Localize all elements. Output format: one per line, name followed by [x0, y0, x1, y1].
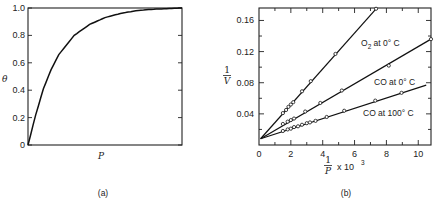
y-tick-label: 0.2: [12, 113, 25, 123]
y-tick-label: 0.6: [12, 58, 25, 68]
data-point: [281, 111, 284, 114]
data-point: [300, 90, 303, 93]
data-point: [374, 99, 377, 102]
data-point: [343, 109, 346, 112]
data-point: [300, 123, 303, 126]
panel-a-y-axis-label: θ: [2, 74, 8, 84]
data-point: [308, 121, 311, 124]
svg-text:1: 1: [325, 155, 331, 165]
figure: 00.20.40.60.81.0 θ P (a) 02468100.040.08…: [0, 0, 435, 204]
svg-text:1: 1: [224, 65, 230, 75]
fit-line-0: [261, 9, 376, 139]
x-tick-label: 6: [352, 149, 357, 159]
y-tick-label: 0.16: [236, 15, 254, 25]
data-point: [292, 125, 295, 128]
data-point: [374, 7, 377, 10]
data-point: [400, 91, 403, 94]
y-tick-label: 0.04: [236, 109, 254, 119]
x-tick-label: 8: [384, 149, 389, 159]
y-tick-label: 0.4: [12, 85, 25, 95]
annotation-o2-0c: O2 at 0° C: [361, 38, 400, 50]
y-tick-label: 0: [20, 140, 25, 150]
data-point: [286, 128, 289, 131]
x-tick-label: 2: [288, 149, 293, 159]
panel-a-y-ticks: 00.20.40.60.81.0: [12, 3, 182, 150]
svg-text:V: V: [224, 76, 232, 86]
panel-b-reciprocal-plot: 02468100.040.080.120.16 1 V 1 P x 10 3 O…: [223, 7, 433, 198]
panel-a-langmuir-isotherm: 00.20.40.60.81.0 θ P (a): [2, 3, 182, 198]
panel-b-x-axis-label: 1 P x 10 3: [324, 155, 365, 176]
data-point: [387, 64, 390, 67]
data-point: [429, 38, 432, 41]
y-tick-label: 0.12: [236, 47, 254, 57]
data-point: [334, 52, 337, 55]
panel-a-plot-frame: [28, 8, 182, 145]
data-point: [292, 101, 295, 104]
data-point: [296, 125, 299, 128]
panel-b-label: (b): [341, 188, 352, 198]
x-tick-label: 0: [256, 149, 261, 159]
annotation-co-0c: CO at 0° C: [374, 77, 415, 87]
data-point: [305, 122, 308, 125]
data-point: [319, 101, 322, 104]
data-point: [284, 108, 287, 111]
data-point: [289, 118, 292, 121]
svg-text:x 10: x 10: [337, 162, 354, 172]
fit-line-1: [261, 39, 431, 139]
panel-b-fit-lines: [261, 9, 431, 139]
data-point: [304, 110, 307, 113]
y-tick-label: 0.08: [236, 78, 254, 88]
y-tick-label: 1.0: [12, 3, 25, 13]
data-point: [281, 122, 284, 125]
data-point: [314, 119, 317, 122]
data-point: [325, 115, 328, 118]
panel-a-label: (a): [98, 188, 109, 198]
y-tick-label: 0.8: [12, 30, 25, 40]
x-tick-label: 10: [413, 149, 423, 159]
data-point: [281, 129, 284, 132]
svg-text:P: P: [324, 166, 332, 176]
panel-a-x-axis-label: P: [97, 151, 105, 161]
panel-b-y-axis-label: 1 V: [223, 65, 232, 86]
annotation-co-100c: CO at 100° C: [363, 108, 414, 118]
data-point: [340, 89, 343, 92]
svg-text:3: 3: [361, 159, 365, 166]
data-point: [286, 120, 289, 123]
panel-a-curve: [28, 8, 182, 145]
data-point: [309, 80, 312, 83]
data-point: [292, 117, 295, 120]
data-point: [289, 127, 292, 130]
